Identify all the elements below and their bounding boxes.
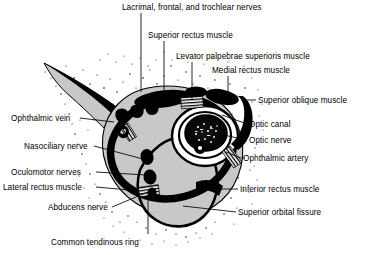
trochlear-nerve-opening	[145, 101, 158, 115]
lacrimal-nerve-opening	[115, 108, 128, 122]
label-oculomotor-nerves: Oculomotor nerves	[11, 168, 81, 178]
label-lateral-rectus-muscle: Lateral rectus muscle	[3, 183, 82, 193]
orbital-apex-diagram: Lacrimal, frontal, and trochlear nervesS…	[0, 0, 369, 255]
label-medial-rectus-muscle: Medial rectus muscle	[212, 66, 290, 76]
label-superior-oblique-muscle: Superior oblique muscle	[258, 96, 347, 106]
label-optic-canal: Optic canal	[249, 120, 291, 130]
label-ophthalmic-artery: Ophthalmic artery	[243, 154, 308, 164]
label-abducens-nerve: Abducens nerve	[48, 203, 108, 213]
label-superior-rectus-muscle: Superior rectus muscle	[148, 31, 233, 41]
optic-nerve-cross-section	[185, 115, 227, 151]
label-levator-palpebrae-superioris: Levator palpebrae superioris muscle	[176, 52, 310, 62]
label-nasociliary-nerve: Nasociliary nerve	[24, 142, 88, 152]
label-inferior-rectus-muscle: Inferior rectus muscle	[240, 185, 319, 195]
label-optic-nerve: Optic nerve	[249, 136, 291, 146]
label-superior-orbital-fissure: Superior orbital fissure	[238, 208, 321, 218]
medial-rectus-muscle-belly	[185, 87, 207, 98]
label-lacrimal-frontal-trochlear-nerves: Lacrimal, frontal, and trochlear nerves	[122, 3, 261, 13]
frontal-nerve-opening	[130, 104, 143, 118]
abducens-nerve-opening	[147, 187, 156, 198]
label-common-tendinous-ring: Common tendinous ring	[51, 238, 139, 248]
label-ophthalmic-vein: Ophthalmic vein	[11, 114, 70, 124]
